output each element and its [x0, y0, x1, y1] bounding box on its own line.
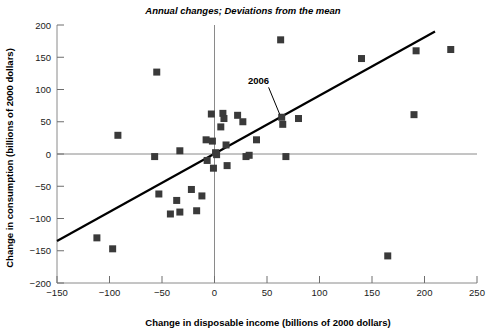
x-tick-label: −100: [99, 287, 120, 298]
data-point-marker: [295, 115, 302, 122]
data-point-marker: [151, 153, 158, 160]
data-point-marker: [210, 165, 217, 172]
data-point-marker: [234, 112, 241, 119]
data-point-marker: [223, 141, 230, 148]
chart-title: Annual changes; Deviations from the mean: [144, 5, 341, 16]
data-point-marker: [176, 209, 183, 216]
data-point-marker: [358, 55, 365, 62]
data-point-marker: [188, 186, 195, 193]
data-point-marker: [213, 151, 220, 158]
data-point-marker: [209, 138, 216, 145]
data-point-marker: [155, 190, 162, 197]
data-point-marker: [198, 192, 205, 199]
data-point-marker: [282, 153, 289, 160]
data-point-marker: [204, 157, 211, 164]
data-point-marker: [278, 114, 285, 121]
data-point-marker: [167, 210, 174, 217]
y-tick-label: 50: [40, 116, 51, 127]
x-tick-label: 200: [417, 287, 433, 298]
data-point-marker: [93, 234, 100, 241]
data-point-marker: [114, 132, 121, 139]
y-tick-label: 150: [35, 52, 51, 63]
y-tick-label: 100: [35, 84, 51, 95]
data-point-marker: [193, 207, 200, 214]
data-point-marker: [224, 162, 231, 169]
data-point-marker: [109, 245, 116, 252]
x-tick-label: −150: [46, 287, 67, 298]
y-tick-label: −200: [30, 278, 51, 289]
data-point-marker: [220, 115, 227, 122]
data-point-marker: [208, 111, 215, 118]
y-tick-label: −100: [30, 213, 51, 224]
data-point-marker: [277, 36, 284, 43]
data-point-marker: [279, 121, 286, 128]
x-tick-label: 50: [262, 287, 273, 298]
y-axis-title: Change in consumption (billions of 2000 …: [4, 48, 15, 268]
annotation-label-2006: 2006: [248, 75, 269, 86]
data-point-marker: [411, 111, 418, 118]
x-tick-label: 100: [312, 287, 328, 298]
data-point-marker: [217, 123, 224, 130]
data-point-marker: [384, 252, 391, 259]
x-tick-label: −50: [154, 287, 170, 298]
x-axis-title: Change in disposable income (billions of…: [145, 317, 390, 328]
x-tick-label: 0: [212, 287, 217, 298]
data-point-marker: [239, 118, 246, 125]
data-point-marker: [153, 69, 160, 76]
y-tick-label: 0: [46, 149, 51, 160]
data-point-marker: [253, 136, 260, 143]
scatter-chart: Annual changes; Deviations from the mean…: [0, 0, 487, 332]
y-tick-label: −150: [30, 245, 51, 256]
y-tick-label: 200: [35, 20, 51, 31]
chart-canvas: Annual changes; Deviations from the mean…: [0, 0, 487, 332]
data-point-marker: [176, 147, 183, 154]
data-point-marker: [413, 47, 420, 54]
data-point-marker: [246, 152, 253, 159]
y-tick-label: −50: [35, 181, 51, 192]
x-tick-labels: −150−100−50050100150200250: [46, 287, 485, 298]
data-point-marker: [173, 197, 180, 204]
x-tick-label: 250: [469, 287, 485, 298]
data-point-marker: [203, 136, 210, 143]
x-tick-label: 150: [364, 287, 380, 298]
data-point-marker: [447, 46, 454, 53]
